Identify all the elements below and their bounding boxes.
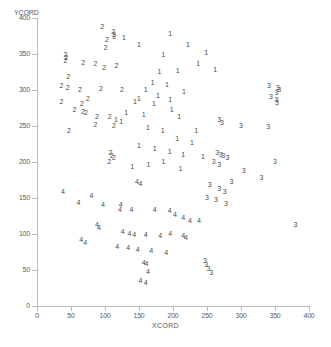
data-point-cluster-1: 1 bbox=[176, 113, 182, 120]
y-tick-label: 0 bbox=[4, 302, 30, 309]
x-tick-mark bbox=[207, 306, 208, 311]
data-point-cluster-2: 2 bbox=[83, 109, 89, 116]
data-point-cluster-2: 2 bbox=[79, 100, 85, 107]
data-point-cluster-2: 2 bbox=[63, 57, 69, 64]
data-point-cluster-2: 2 bbox=[111, 122, 117, 129]
x-tick-label: 400 bbox=[297, 312, 321, 319]
data-point-cluster-1: 1 bbox=[136, 142, 142, 149]
data-point-cluster-4: 4 bbox=[117, 206, 123, 213]
data-point-cluster-1: 1 bbox=[156, 68, 162, 75]
data-point-cluster-3: 3 bbox=[258, 174, 264, 181]
y-tick-label: 200 bbox=[4, 158, 30, 165]
data-point-cluster-3: 3 bbox=[292, 221, 298, 228]
data-point-cluster-3: 3 bbox=[213, 196, 219, 203]
data-point-cluster-4: 4 bbox=[129, 206, 135, 213]
x-tick-mark bbox=[105, 306, 106, 311]
data-point-cluster-1: 1 bbox=[145, 124, 151, 131]
data-point-cluster-2: 2 bbox=[58, 98, 64, 105]
data-point-cluster-3: 3 bbox=[216, 161, 222, 168]
data-point-cluster-4: 4 bbox=[143, 231, 149, 238]
data-point-cluster-1: 1 bbox=[167, 96, 173, 103]
data-point-cluster-1: 1 bbox=[175, 67, 181, 74]
data-point-cluster-4: 4 bbox=[143, 260, 149, 267]
data-point-cluster-2: 2 bbox=[104, 36, 110, 43]
y-tick-mark bbox=[32, 234, 37, 235]
data-point-cluster-4: 4 bbox=[145, 268, 151, 275]
data-point-cluster-1: 1 bbox=[167, 30, 173, 37]
data-point-cluster-3: 3 bbox=[273, 89, 279, 96]
data-point-cluster-4: 4 bbox=[180, 214, 186, 221]
data-point-cluster-1: 1 bbox=[150, 79, 156, 86]
data-point-cluster-4: 4 bbox=[114, 243, 120, 250]
data-point-cluster-3: 3 bbox=[204, 194, 210, 201]
data-point-cluster-2: 2 bbox=[92, 121, 98, 128]
data-point-cluster-1: 1 bbox=[155, 92, 161, 99]
x-tick-mark bbox=[71, 306, 72, 311]
y-tick-mark bbox=[32, 90, 37, 91]
data-point-cluster-2: 2 bbox=[98, 85, 104, 92]
data-point-cluster-4: 4 bbox=[137, 180, 143, 187]
y-tick-mark bbox=[32, 54, 37, 55]
data-point-cluster-4: 4 bbox=[157, 232, 163, 239]
data-point-cluster-4: 4 bbox=[131, 231, 137, 238]
data-point-cluster-1: 1 bbox=[160, 51, 166, 58]
data-point-cluster-1: 1 bbox=[129, 163, 135, 170]
x-tick-mark bbox=[309, 306, 310, 311]
data-point-cluster-4: 4 bbox=[163, 249, 169, 256]
data-point-cluster-4: 4 bbox=[125, 244, 131, 251]
data-point-cluster-3: 3 bbox=[274, 99, 280, 106]
data-point-cluster-2: 2 bbox=[114, 62, 120, 69]
data-point-cluster-3: 3 bbox=[228, 178, 234, 185]
data-point-cluster-4: 4 bbox=[120, 228, 126, 235]
data-point-cluster-2: 2 bbox=[66, 127, 72, 134]
data-point-cluster-3: 3 bbox=[238, 122, 244, 129]
data-point-cluster-2: 2 bbox=[77, 86, 83, 93]
x-tick-label: 300 bbox=[229, 312, 253, 319]
data-point-cluster-4: 4 bbox=[135, 246, 141, 253]
x-tick-mark bbox=[173, 306, 174, 311]
data-point-cluster-3: 3 bbox=[207, 181, 213, 188]
x-tick-mark bbox=[139, 306, 140, 311]
data-point-cluster-1: 1 bbox=[146, 161, 152, 168]
y-tick-mark bbox=[32, 18, 37, 19]
data-point-cluster-1: 1 bbox=[185, 41, 191, 48]
data-point-cluster-2: 2 bbox=[119, 86, 125, 93]
data-point-cluster-2: 2 bbox=[107, 113, 113, 120]
data-point-cluster-1: 1 bbox=[181, 88, 187, 95]
x-tick-label: 250 bbox=[195, 312, 219, 319]
data-point-cluster-2: 2 bbox=[65, 84, 71, 91]
scatter-plot: YCORD 050100150200250300350400 050100150… bbox=[0, 0, 331, 347]
data-point-cluster-4: 4 bbox=[96, 224, 102, 231]
data-point-cluster-3: 3 bbox=[265, 123, 271, 130]
data-point-cluster-2: 2 bbox=[103, 44, 109, 51]
data-point-cluster-1: 1 bbox=[151, 100, 157, 107]
y-axis-line bbox=[37, 18, 38, 306]
y-tick-label: 350 bbox=[4, 50, 30, 57]
x-axis-title: XCORD bbox=[0, 322, 331, 329]
data-point-cluster-1: 1 bbox=[174, 135, 180, 142]
data-point-cluster-1: 1 bbox=[121, 34, 127, 41]
data-point-cluster-2: 2 bbox=[65, 73, 71, 80]
data-point-cluster-3: 3 bbox=[208, 269, 214, 276]
data-point-cluster-3: 3 bbox=[222, 188, 228, 195]
x-tick-label: 150 bbox=[127, 312, 151, 319]
data-point-cluster-1: 1 bbox=[164, 81, 170, 88]
data-point-cluster-2: 2 bbox=[101, 64, 107, 71]
data-point-cluster-4: 4 bbox=[196, 217, 202, 224]
data-point-cluster-2: 2 bbox=[92, 60, 98, 67]
data-point-cluster-2: 2 bbox=[99, 23, 105, 30]
data-point-cluster-3: 3 bbox=[241, 167, 247, 174]
data-point-cluster-1: 1 bbox=[143, 86, 149, 93]
data-point-cluster-1: 1 bbox=[160, 158, 166, 165]
data-point-cluster-3: 3 bbox=[272, 158, 278, 165]
data-point-cluster-1: 1 bbox=[169, 106, 175, 113]
y-tick-mark bbox=[32, 270, 37, 271]
data-point-cluster-1: 1 bbox=[136, 41, 142, 48]
data-point-cluster-2: 2 bbox=[71, 106, 77, 113]
data-point-cluster-4: 4 bbox=[82, 239, 88, 246]
data-point-cluster-4: 4 bbox=[60, 188, 66, 195]
x-tick-mark bbox=[241, 306, 242, 311]
x-tick-label: 350 bbox=[263, 312, 287, 319]
data-point-cluster-1: 1 bbox=[212, 66, 218, 73]
data-point-cluster-4: 4 bbox=[143, 279, 149, 286]
